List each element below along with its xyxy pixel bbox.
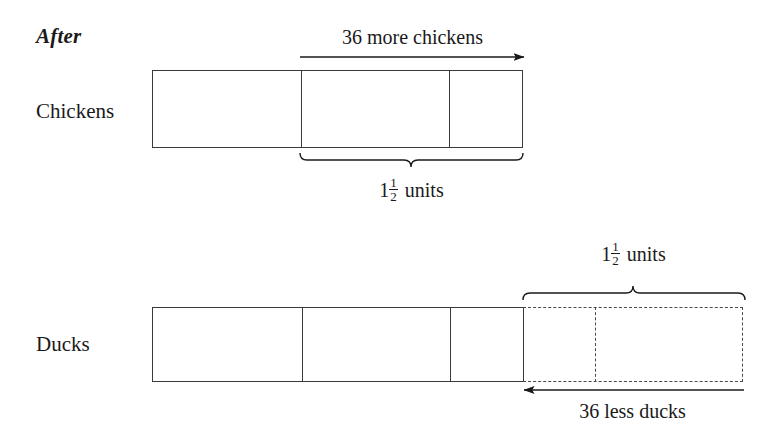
ducks-brace-label: 112units — [520, 240, 747, 268]
fraction-one-half: 12 — [611, 240, 620, 268]
annotation-36-more-chickens: 36 more chickens — [295, 26, 530, 49]
ducks-bar-divider-2 — [450, 307, 451, 382]
mixed-number-chickens: 112 — [379, 176, 398, 204]
whole-part: 1 — [601, 243, 611, 265]
ducks-dashed-divider — [595, 307, 596, 382]
bar-model-diagram: After Chickens 36 more chickens 112units… — [0, 0, 783, 442]
brace-above-ducks — [523, 286, 745, 300]
ducks-bar-divider-1 — [302, 307, 303, 382]
fraction-numerator: 1 — [611, 240, 620, 253]
fraction-numerator: 1 — [389, 176, 398, 189]
fraction-denominator: 2 — [611, 253, 620, 267]
chickens-bar-divider-2 — [449, 70, 450, 148]
units-word: units — [620, 243, 666, 265]
fraction-one-half: 12 — [389, 176, 398, 204]
chickens-bar — [152, 70, 523, 148]
ducks-bar — [152, 307, 524, 382]
page-title: After — [36, 24, 81, 49]
brace-below-chickens — [300, 153, 523, 167]
ducks-dashed-extension — [523, 307, 743, 382]
chickens-brace-label: 112units — [298, 176, 525, 204]
row-label-ducks: Ducks — [36, 332, 90, 357]
annotation-36-less-ducks: 36 less ducks — [520, 400, 745, 423]
whole-part: 1 — [379, 179, 389, 201]
fraction-denominator: 2 — [389, 189, 398, 203]
chickens-bar-divider-1 — [301, 70, 302, 148]
units-word: units — [398, 179, 444, 201]
mixed-number-ducks: 112 — [601, 240, 620, 268]
row-label-chickens: Chickens — [36, 99, 114, 124]
